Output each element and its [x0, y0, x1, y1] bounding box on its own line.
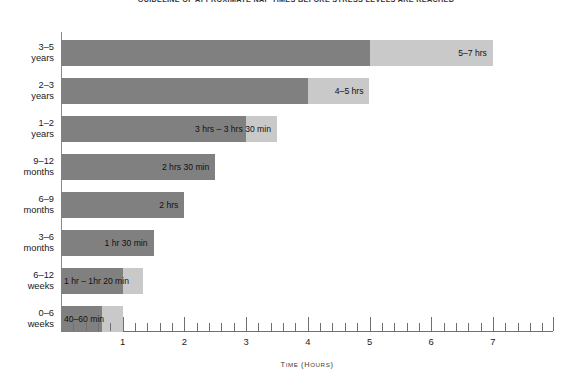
x-tick-minor: [283, 323, 284, 331]
x-tick-minor: [110, 323, 111, 331]
x-tick-label: 5: [367, 336, 372, 347]
x-tick-minor: [73, 323, 74, 331]
x-tick-minor: [221, 323, 222, 331]
x-tick-minor: [518, 323, 519, 331]
bar-value-label: 1 hr – 1hr 20 min: [64, 268, 129, 294]
x-tick-minor: [135, 323, 136, 331]
x-tick-minor: [147, 323, 148, 331]
bar-segment-lower: [61, 78, 308, 104]
x-tick-minor: [197, 323, 198, 331]
x-tick-minor: [419, 323, 420, 331]
bar-value-label: 2 hrs: [159, 192, 178, 218]
bar-row[interactable]: 1 hr – 1hr 20 min: [61, 268, 143, 294]
x-tick-minor: [345, 323, 346, 331]
category-label: 3–6months: [0, 232, 54, 253]
x-tick-minor: [295, 323, 296, 331]
x-tick-minor: [320, 323, 321, 331]
x-tick-minor: [86, 323, 87, 331]
category-label: 6–9months: [0, 194, 54, 215]
x-tick-minor: [407, 323, 408, 331]
x-tick-minor: [234, 323, 235, 331]
bar-segment-lower: [61, 40, 370, 66]
x-tick-minor: [530, 323, 531, 331]
x-tick-minor: [332, 323, 333, 331]
plot-area: 3–5years2–3years1–2years9–12months6–9mon…: [0, 0, 569, 389]
x-tick-major: [370, 317, 371, 331]
x-tick-major: [493, 317, 494, 331]
x-tick-label: 1: [120, 336, 125, 347]
x-tick-minor: [271, 323, 272, 331]
bar-row[interactable]: 4–5 hrs: [61, 78, 370, 104]
x-tick-label: 3: [243, 336, 248, 347]
nap-times-bar-chart: GUIDELINE OF APPROXIMATE NAP TIMES BEFOR…: [0, 0, 569, 389]
x-tick-minor: [258, 323, 259, 331]
x-tick-minor: [468, 323, 469, 331]
x-axis-line: [61, 331, 553, 332]
bar-value-label: 1 hr 30 min: [105, 230, 148, 256]
x-tick-label: 7: [490, 336, 495, 347]
x-tick-minor: [160, 323, 161, 331]
x-axis-title: TIME (HOURS): [61, 360, 553, 369]
x-tick-major: [246, 317, 247, 331]
x-tick-minor: [382, 323, 383, 331]
bar-value-label: 4–5 hrs: [335, 78, 364, 104]
x-axis-title-text: TIME (HOURS): [281, 360, 334, 369]
bar-value-label: 3 hrs – 3 hrs 30 min: [195, 116, 271, 142]
bar-row[interactable]: 3 hrs – 3 hrs 30 min: [61, 116, 277, 142]
x-tick-end: [553, 317, 554, 331]
x-tick-minor: [394, 323, 395, 331]
bar-row[interactable]: 2 hrs: [61, 192, 184, 218]
x-tick-label: 4: [305, 336, 310, 347]
x-tick-major: [123, 317, 124, 331]
bar-row[interactable]: 40–60 min: [61, 306, 123, 332]
bar-value-label: 2 hrs 30 min: [162, 154, 209, 180]
category-label: 9–12months: [0, 156, 54, 177]
x-tick-minor: [444, 323, 445, 331]
bar-row[interactable]: 2 hrs 30 min: [61, 154, 215, 180]
x-tick-minor: [542, 323, 543, 331]
category-label: 1–2years: [0, 118, 54, 139]
x-tick-label: 6: [429, 336, 434, 347]
x-tick-minor: [505, 323, 506, 331]
x-tick-major: [184, 317, 185, 331]
category-label: 6–12weeks: [0, 270, 54, 291]
x-tick-minor: [98, 323, 99, 331]
category-label: 2–3years: [0, 80, 54, 101]
bar-row[interactable]: 1 hr 30 min: [61, 230, 154, 256]
x-tick-minor: [172, 323, 173, 331]
bar-value-label: 5–7 hrs: [458, 40, 487, 66]
x-tick-major: [308, 317, 309, 331]
bar-row[interactable]: 5–7 hrs: [61, 40, 493, 66]
x-tick-minor: [456, 323, 457, 331]
x-tick-label: 2: [182, 336, 187, 347]
x-tick-minor: [481, 323, 482, 331]
category-label: 0–6weeks: [0, 308, 54, 329]
x-tick-minor: [209, 323, 210, 331]
category-label: 3–5years: [0, 42, 54, 63]
bar-segment-upper: [102, 306, 123, 332]
x-tick-major: [431, 317, 432, 331]
x-tick-minor: [357, 323, 358, 331]
